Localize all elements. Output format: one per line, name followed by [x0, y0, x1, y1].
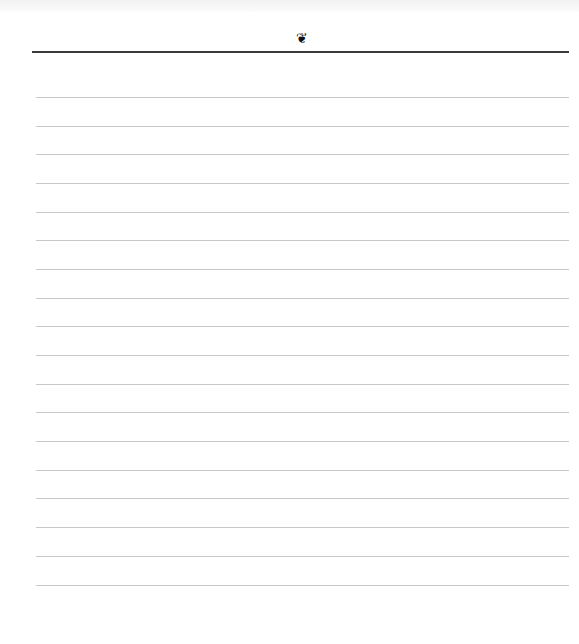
ruled-line	[36, 298, 569, 299]
ruled-line	[36, 212, 569, 213]
header-rule	[32, 51, 569, 53]
ruled-line	[36, 183, 569, 184]
ruled-line	[36, 326, 569, 327]
ruled-line	[36, 154, 569, 155]
ruled-line	[36, 412, 569, 413]
ruled-line	[36, 441, 569, 442]
ruled-line	[36, 498, 569, 499]
ruled-line	[36, 585, 569, 586]
ruled-line	[36, 556, 569, 557]
ruled-line	[36, 470, 569, 471]
ruled-line	[36, 355, 569, 356]
ruled-line	[36, 384, 569, 385]
scan-edge-band	[0, 0, 579, 12]
ruled-line	[36, 126, 569, 127]
fleuron-heart-icon: ❦	[295, 31, 309, 45]
ruled-line	[36, 240, 569, 241]
ruled-line	[36, 527, 569, 528]
ruled-line	[36, 97, 569, 98]
ruled-line	[36, 269, 569, 270]
